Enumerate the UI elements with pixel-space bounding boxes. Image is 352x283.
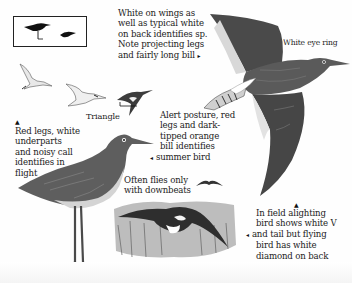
caption-alighting: ▲ In field alighting bird shows white V … [256,208,337,261]
pointer-left-icon: ◂ [246,231,249,238]
pointer-up-icon: ▲ [294,200,298,210]
page-bottom-edge [0,262,352,283]
flying-bird-downbeat-illustration [195,176,225,192]
field-guide-plate: White on wings as well as typical white … [0,0,352,283]
caption-downbeats: Often flies only with downbeats [124,175,191,196]
silhouette-birds-icon [13,16,87,47]
caption-alert-posture: Alert posture, red legs and dark- tipped… [160,110,235,163]
flying-bird-triangle-illustration [115,86,155,120]
pointer-left-icon: ◂ [150,154,153,161]
flying-bird-pale-2-illustration [64,82,108,108]
flying-bird-pale-1-illustration [18,62,58,92]
pointer-up-icon: ▲ [15,118,80,126]
caption-triangle: Triangle [86,111,120,121]
caption-white-on-wings: White on wings as well as typical white … [118,8,207,61]
caption-white-eye-ring: White eye ring [283,38,338,48]
marsh-scene-landing-bird-illustration [110,195,238,261]
pointer-right-icon: ▸ [197,52,200,59]
caption-red-legs: ▲ Red legs, white underparts and noisy c… [15,118,80,178]
